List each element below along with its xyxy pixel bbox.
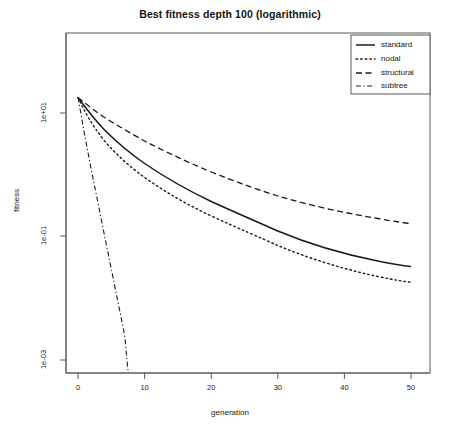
xtick-label-40: 40 (329, 383, 359, 392)
plot-border (66, 33, 430, 373)
chart-figure: Best fitness depth 100 (logarithmic) (0, 0, 460, 447)
legend-label-standard: standard (381, 40, 412, 49)
y-axis-label: fitness (12, 171, 21, 231)
x-axis-label: generation (0, 408, 460, 417)
xtick-label-0: 0 (63, 383, 93, 392)
xtick-label-50: 50 (396, 383, 426, 392)
xtick-label-10: 10 (130, 383, 160, 392)
legend-label-subtree: subtree (381, 81, 408, 90)
y-axis-ticks (60, 33, 66, 373)
legend-label-nodal: nodal (381, 54, 401, 63)
ytick-label-1e-01: 1e-01 (39, 219, 48, 253)
ytick-label-1e-03: 1e-03 (39, 343, 48, 377)
xtick-label-20: 20 (196, 383, 226, 392)
xtick-label-30: 30 (263, 383, 293, 392)
x-axis-ticks (66, 373, 430, 379)
legend-label-structural: structural (381, 68, 414, 77)
ytick-label-1e01: 1e+01 (39, 96, 48, 130)
